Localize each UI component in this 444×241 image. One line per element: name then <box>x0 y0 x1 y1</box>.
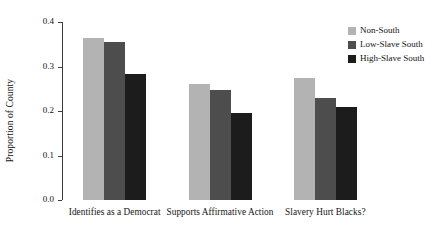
y-tick-label: 0.1 <box>26 151 54 160</box>
y-tick-mark <box>58 200 62 201</box>
bar <box>231 113 252 200</box>
plot-area <box>62 22 378 200</box>
y-axis-title: Proportion of County <box>0 0 20 241</box>
legend-label: High-Slave South <box>360 54 424 63</box>
y-tick-label: 0.4 <box>26 17 54 26</box>
legend-item: Non-South <box>348 24 444 37</box>
bar <box>189 84 210 200</box>
bar <box>294 78 315 200</box>
bar <box>315 98 336 200</box>
legend-item: Low-Slave South <box>348 38 444 51</box>
legend-swatch-icon <box>348 27 356 35</box>
bar <box>83 38 104 200</box>
y-tick-label: 0.2 <box>26 106 54 115</box>
bar <box>125 74 146 200</box>
legend-swatch-icon <box>348 41 356 49</box>
legend-label: Low-Slave South <box>360 40 423 49</box>
x-axis-label: Slavery Hurt Blacks? <box>255 207 395 217</box>
legend-swatch-icon <box>348 55 356 63</box>
legend-label: Non-South <box>360 26 400 35</box>
y-tick-label: 0.3 <box>26 62 54 71</box>
y-tick-label: 0.0 <box>26 195 54 204</box>
chart-legend: Non-SouthLow-Slave SouthHigh-Slave South <box>348 24 444 66</box>
bar <box>104 42 125 200</box>
bar <box>210 90 231 200</box>
legend-item: High-Slave South <box>348 52 444 65</box>
bar-chart-figure: Proportion of County 0.00.10.20.30.4 Ide… <box>0 0 444 241</box>
bar <box>336 107 357 200</box>
